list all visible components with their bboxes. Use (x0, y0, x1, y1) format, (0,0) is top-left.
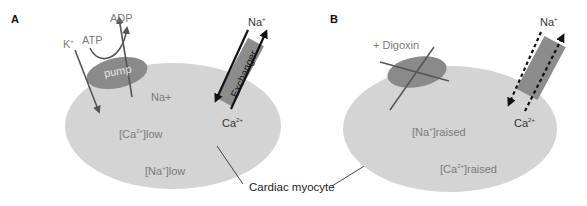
conc-ca-low: [Ca2+]low (119, 128, 163, 140)
conc-na-raised-post: ]raised (433, 126, 466, 138)
conc-na-low-pre: [Na (145, 165, 162, 177)
exchanger-ca-sup: 2+ (236, 117, 243, 123)
diagram-canvas: Exchanger (0, 0, 587, 206)
conc-na-low-post: ]low (166, 165, 186, 177)
exchanger-na-label: Na+ (248, 16, 266, 28)
conc-ca-low-sup: 2+ (136, 128, 143, 134)
exchanger-b-na-text: Na (540, 16, 554, 28)
k-sup: + (70, 38, 74, 44)
digoxin-label: + Digoxin (373, 40, 419, 51)
exchanger-na-sup: + (262, 16, 266, 22)
conc-na-low: [Na+]low (145, 165, 185, 177)
panel-letter-a: A (11, 14, 19, 25)
conc-ca-raised-pre: [Ca (440, 163, 457, 175)
cardiac-myocyte-digoxin-figure: Exchanger A B ADP ATP K+ pump Na+ Na+ Ca… (0, 0, 587, 206)
exchanger-b-ca-sup: 2+ (528, 117, 535, 123)
conc-ca-raised-sup: 2+ (457, 163, 464, 169)
exchanger-b-na-label: Na+ (540, 16, 558, 28)
k-label: K+ (63, 38, 74, 50)
conc-ca-raised-post: ]raised (464, 163, 497, 175)
conc-na-raised: [Na+]raised (412, 126, 466, 138)
na-in-label: Na+ (151, 92, 172, 103)
exchanger-ca-label: Ca2+ (222, 117, 243, 129)
cardiac-myocyte-label: Cardiac myocyte (249, 182, 335, 194)
exchanger-b-na-sup: + (554, 16, 558, 22)
exchanger-b-ca-text: Ca (514, 117, 528, 129)
panel-letter-b: B (330, 14, 338, 25)
conc-ca-raised: [Ca2+]raised (440, 163, 497, 175)
exchanger-b-ca-label: Ca2+ (514, 117, 535, 129)
conc-ca-low-post: ]low (143, 128, 163, 140)
conc-na-raised-pre: [Na (412, 126, 429, 138)
atp-label: ATP (82, 35, 103, 46)
exchanger-na-text: Na (248, 16, 262, 28)
exchanger-ca-text: Ca (222, 117, 236, 129)
adp-label: ADP (110, 13, 133, 24)
conc-ca-low-pre: [Ca (119, 128, 136, 140)
